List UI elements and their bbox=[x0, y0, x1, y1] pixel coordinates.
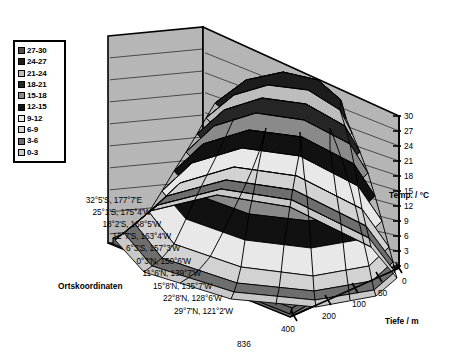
legend-item[interactable]: 27-30 bbox=[18, 45, 61, 56]
legend-item[interactable]: 24-27 bbox=[18, 56, 61, 67]
z-tick-label: 6 bbox=[404, 231, 409, 241]
z-tick-label: 3 bbox=[404, 246, 409, 256]
legend-item[interactable]: 9-12 bbox=[18, 113, 61, 124]
y-tick-label: 0 bbox=[402, 276, 407, 286]
y-tick-label: 200 bbox=[322, 311, 336, 321]
x-tick-label: 6°3'S, 157°3'W bbox=[0, 243, 180, 253]
legend-label: 6-9 bbox=[27, 124, 38, 135]
z-tick-label: 30 bbox=[404, 111, 413, 121]
legend-label: 24-27 bbox=[27, 56, 46, 67]
z-tick-label: 18 bbox=[404, 171, 413, 181]
z-tick-label: 27 bbox=[404, 126, 413, 136]
x-tick-label: 25°1'S, 175°4'W bbox=[0, 207, 151, 217]
legend-item[interactable]: 6-9 bbox=[18, 124, 61, 135]
legend-label: 15-18 bbox=[27, 90, 46, 101]
legend-item[interactable]: 3-6 bbox=[18, 135, 61, 146]
legend-item[interactable]: 15-18 bbox=[18, 90, 61, 101]
legend-swatch bbox=[18, 115, 25, 122]
legend-swatch bbox=[18, 126, 25, 133]
legend-swatch bbox=[18, 138, 25, 145]
legend-swatch bbox=[18, 104, 25, 111]
legend-item[interactable]: 21-24 bbox=[18, 68, 61, 79]
legend-label: 27-30 bbox=[27, 45, 46, 56]
x-axis-title: Ortskoordinaten bbox=[58, 281, 123, 291]
z-tick-label: 0 bbox=[404, 261, 409, 271]
legend-swatch bbox=[18, 92, 25, 99]
legend-label: 12-15 bbox=[27, 101, 46, 112]
z-tick-label: 12 bbox=[404, 201, 413, 211]
legend-label: 21-24 bbox=[27, 68, 46, 79]
z-tick-label: 21 bbox=[404, 156, 413, 166]
z-axis-title: Temp. / °C bbox=[389, 190, 429, 200]
legend-swatch bbox=[18, 47, 25, 54]
x-tick-label: 12°7'S, 163°4'W bbox=[0, 231, 171, 241]
x-tick-label: 18°2'S, 168°5'W bbox=[0, 219, 161, 229]
x-tick-label: 22°8'N, 128°6'W bbox=[0, 293, 222, 303]
legend-swatch bbox=[18, 149, 25, 156]
legend-swatch bbox=[18, 81, 25, 88]
legend-item[interactable]: 0-3 bbox=[18, 147, 61, 158]
legend-label: 3-6 bbox=[27, 135, 38, 146]
z-tick-label: 24 bbox=[404, 141, 413, 151]
y-tick-label: 100 bbox=[352, 299, 366, 309]
y-tick-label: 50 bbox=[378, 288, 387, 298]
x-tick-label: 29°7'N, 121°2'W bbox=[0, 306, 233, 316]
z-tick-label: 9 bbox=[404, 216, 409, 226]
chart-canvas: 27-30 24-27 21-24 18-21 15-18 12-15 9-12 bbox=[0, 0, 451, 361]
x-tick-label: 32°5'S, 177°7'E bbox=[0, 195, 142, 205]
legend-label: 0-3 bbox=[27, 147, 38, 158]
legend-swatch bbox=[18, 58, 25, 65]
legend-item[interactable]: 18-21 bbox=[18, 79, 61, 90]
y-tick-label: 400 bbox=[281, 324, 295, 334]
legend: 27-30 24-27 21-24 18-21 15-18 12-15 9-12 bbox=[13, 40, 66, 163]
legend-swatch bbox=[18, 70, 25, 77]
legend-item[interactable]: 12-15 bbox=[18, 101, 61, 112]
legend-label: 18-21 bbox=[27, 79, 46, 90]
y-tick-label: 836 bbox=[237, 339, 251, 349]
y-axis-title: Tiefe / m bbox=[385, 316, 419, 326]
legend-label: 9-12 bbox=[27, 113, 42, 124]
x-tick-label: 0°3'N, 150°6'W bbox=[0, 256, 191, 266]
x-tick-label: 11°6'N, 139°7'W bbox=[0, 268, 201, 278]
